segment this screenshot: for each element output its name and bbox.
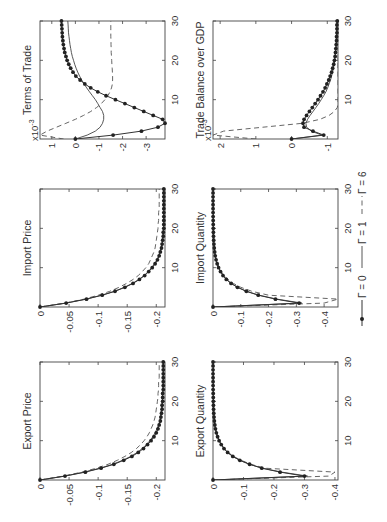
data-marker (38, 305, 42, 309)
data-marker (212, 238, 216, 242)
y-tick-label: -0.15 (122, 311, 133, 333)
data-marker (274, 297, 278, 301)
y-tick-label: 0 (208, 484, 219, 489)
x-tick-label: 10 (342, 435, 353, 446)
y-tick-label: -0.4 (329, 484, 340, 500)
data-marker (335, 19, 339, 23)
series-line-gamma1 (213, 362, 308, 480)
data-marker (63, 474, 67, 478)
data-marker (297, 301, 301, 305)
data-marker (85, 297, 89, 301)
data-marker (161, 372, 165, 376)
x-tick-label: 10 (169, 435, 180, 446)
data-marker (65, 58, 69, 62)
data-marker (211, 368, 215, 372)
x-tick-label: 30 (342, 184, 353, 195)
data-marker (64, 301, 68, 305)
data-marker (111, 133, 115, 137)
y-tick-label: -3 (141, 143, 152, 151)
series-line-gamma6 (40, 362, 159, 480)
data-marker (211, 364, 215, 368)
data-marker (323, 86, 327, 90)
data-marker (211, 215, 215, 219)
data-marker (163, 121, 167, 125)
data-marker (211, 226, 215, 230)
data-marker (162, 223, 166, 227)
data-marker (335, 23, 339, 27)
panel-title: Terms of Trade (21, 45, 33, 115)
axis-frame (40, 189, 165, 307)
data-marker (62, 47, 66, 51)
data-marker (162, 226, 166, 230)
data-marker (149, 439, 153, 443)
data-marker (212, 415, 216, 419)
series-line-gamma6 (40, 189, 159, 307)
data-marker (71, 70, 75, 74)
data-marker (278, 470, 282, 474)
panel-export-price: Export Price1020300-0.05-0.1-0.15-0.2 (21, 357, 180, 506)
data-marker (238, 458, 242, 462)
data-marker (260, 466, 264, 470)
x-tick-label: 20 (169, 396, 180, 407)
data-marker (38, 478, 42, 482)
data-marker (335, 35, 339, 39)
data-marker (146, 443, 150, 447)
series-line-gamma1 (213, 189, 302, 307)
legend-label-gamma6: Γ = 6 (357, 171, 368, 194)
legend-label-gamma1: Γ = 1 (357, 221, 368, 244)
data-marker (222, 447, 226, 451)
x-tick-label: 30 (169, 16, 180, 27)
data-marker (162, 211, 166, 215)
series-line-gamma6 (40, 21, 113, 139)
data-marker (60, 31, 64, 35)
data-marker (330, 70, 334, 74)
legend-label-gamma0: Γ = 0 (357, 275, 368, 298)
data-marker (161, 364, 165, 368)
data-marker (211, 380, 215, 384)
legend-marker-gamma0 (360, 317, 364, 321)
data-marker (113, 289, 117, 293)
data-marker (123, 285, 127, 289)
y-tick-label: -0.15 (122, 484, 133, 506)
data-marker (215, 262, 219, 266)
data-marker (157, 254, 161, 258)
data-marker (325, 82, 329, 86)
data-marker (321, 90, 325, 94)
data-marker (305, 114, 309, 118)
axis-frame (40, 21, 165, 139)
data-marker (83, 82, 87, 86)
data-marker (161, 360, 165, 364)
x-tick-label: 30 (169, 184, 180, 195)
series-line-gamma0 (40, 189, 164, 307)
y-tick-label: -0.2 (151, 484, 162, 500)
data-marker (161, 230, 165, 234)
data-marker (161, 368, 165, 372)
panel-title: Export Quantity (194, 384, 206, 457)
data-marker (99, 466, 103, 470)
data-marker (211, 372, 215, 376)
impulse-response-figure: Export Price1020300-0.05-0.1-0.15-0.2Imp… (0, 0, 387, 522)
data-marker (217, 266, 221, 270)
data-marker (143, 274, 147, 278)
data-marker (156, 427, 160, 431)
data-marker (216, 435, 220, 439)
data-marker (248, 462, 252, 466)
y-tick-label: 2 (215, 143, 226, 148)
y-tick-label: -0.2 (263, 311, 274, 327)
data-marker (211, 191, 215, 195)
data-marker (214, 431, 218, 435)
data-marker (211, 388, 215, 392)
series-line-gamma1 (40, 362, 163, 480)
data-marker (213, 254, 217, 258)
data-marker (162, 191, 166, 195)
series-line-gamma6 (213, 189, 338, 307)
data-marker (153, 262, 157, 266)
data-marker (151, 114, 155, 118)
data-marker (60, 23, 64, 27)
series-line-gamma0 (213, 362, 305, 480)
y-tick-label: -0.3 (299, 484, 310, 500)
data-marker (162, 203, 166, 207)
data-marker (213, 423, 217, 427)
scale-label: x10-3 (201, 119, 213, 141)
x-tick-label: 10 (169, 262, 180, 273)
